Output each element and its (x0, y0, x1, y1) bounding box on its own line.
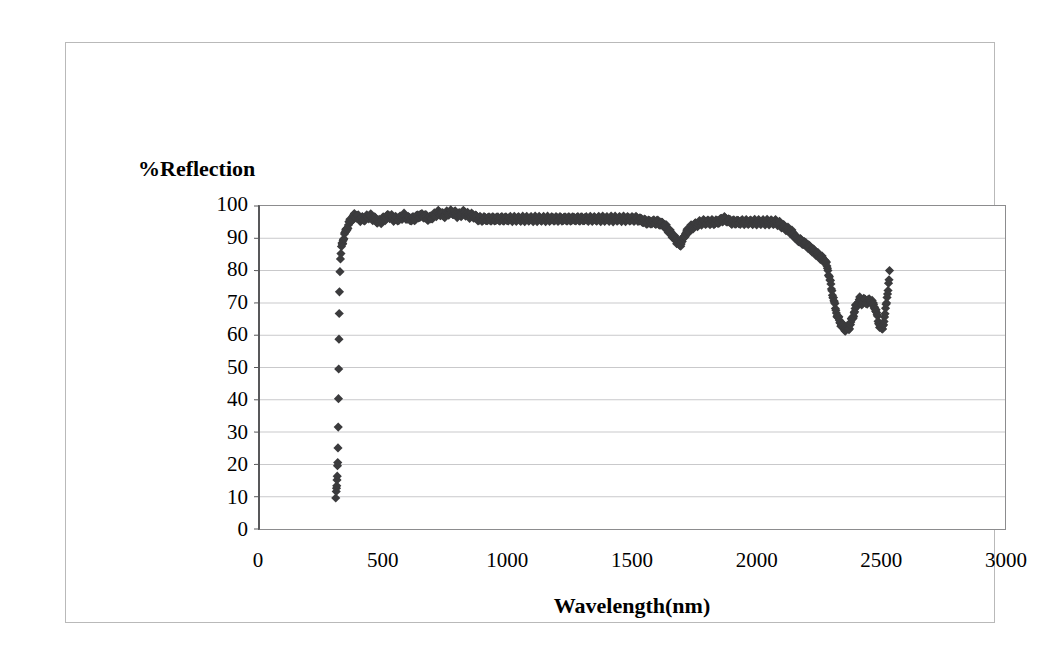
x-tick-label: 2500 (841, 548, 921, 572)
y-tick-label: 90 (188, 227, 248, 248)
x-tick-label: 3000 (966, 548, 1041, 572)
y-axis-title: %Reflection (138, 156, 255, 182)
figure-page: %Reflection 0102030405060708090100 05001… (0, 0, 1041, 658)
y-tick-label: 70 (188, 292, 248, 313)
y-tick-label: 10 (188, 487, 248, 508)
data-point (334, 394, 343, 403)
x-tick-label: 500 (343, 548, 423, 572)
data-point (334, 423, 343, 432)
data-point (335, 267, 344, 276)
plot-area (258, 205, 1006, 530)
y-tick-label: 20 (188, 454, 248, 475)
y-tick-label: 30 (188, 422, 248, 443)
figure-frame: %Reflection 0102030405060708090100 05001… (65, 42, 995, 623)
y-tick-label: 60 (188, 324, 248, 345)
x-tick-label: 2000 (717, 548, 797, 572)
data-point (335, 309, 344, 318)
data-point (333, 443, 342, 452)
y-tick-label: 50 (188, 357, 248, 378)
data-point (334, 364, 343, 373)
x-axis-title: Wavelength(nm) (258, 593, 1006, 619)
x-tick-label: 1500 (592, 548, 672, 572)
y-axis-tick-labels: 0102030405060708090100 (186, 205, 248, 530)
y-tick-label: 0 (188, 519, 248, 540)
y-tick-label: 100 (188, 194, 248, 215)
spectrum-plot (260, 206, 1005, 529)
data-point (335, 287, 344, 296)
y-tick-label: 80 (188, 259, 248, 280)
data-series (331, 205, 894, 502)
y-tick-label: 40 (188, 389, 248, 410)
x-tick-label: 1000 (467, 548, 547, 572)
data-point (885, 266, 894, 275)
data-point (334, 335, 343, 344)
x-tick-label: 0 (218, 548, 298, 572)
x-axis-tick-labels: 050010001500200025003000 (258, 548, 1006, 578)
